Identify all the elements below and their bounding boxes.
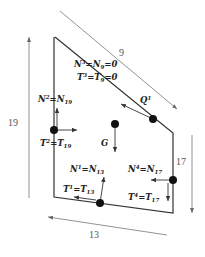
contact-point-q1: Q1 xyxy=(121,95,157,123)
label-n3: N3=N9=0 xyxy=(73,59,117,70)
contact-dot-2 xyxy=(50,126,58,134)
dimension-label-left: 19 xyxy=(8,117,18,128)
dimension-label-top: 9 xyxy=(119,47,124,58)
label-t3: T3=T9=0 xyxy=(77,72,118,83)
dimension-arrow-right: 17 xyxy=(176,135,192,213)
dimension-label-bottom: 13 xyxy=(89,229,99,240)
label-n4: N4=N17 xyxy=(127,164,162,175)
contact-point-4: N4=N17 T4=T17 xyxy=(127,164,177,203)
gravity-dot xyxy=(111,120,119,128)
label-t1: T1=T13 xyxy=(63,184,94,195)
label-q1: Q1 xyxy=(140,95,151,105)
free-body-diagram: 9 19 17 13 N3=N9=0 T3=T9=0 Q1 N2=N19 T2=… xyxy=(0,0,205,257)
contact-dot-4 xyxy=(169,176,177,184)
contact-point-2: N2=N19 T2=T19 xyxy=(37,94,77,149)
label-n2: N2=N19 xyxy=(37,94,72,105)
contact-dot-q1 xyxy=(149,115,157,123)
label-t4: T4=T17 xyxy=(128,192,159,203)
label-g: G xyxy=(101,138,108,148)
center-of-gravity: G xyxy=(101,120,119,152)
dimension-arrow-bottom: 13 xyxy=(48,217,167,240)
label-t2: T2=T19 xyxy=(40,138,71,149)
dimension-arrow-left: 19 xyxy=(8,37,29,198)
label-n1: N1=N13 xyxy=(69,164,104,175)
contact-dot-1 xyxy=(96,199,104,207)
dimension-label-right: 17 xyxy=(176,156,186,167)
